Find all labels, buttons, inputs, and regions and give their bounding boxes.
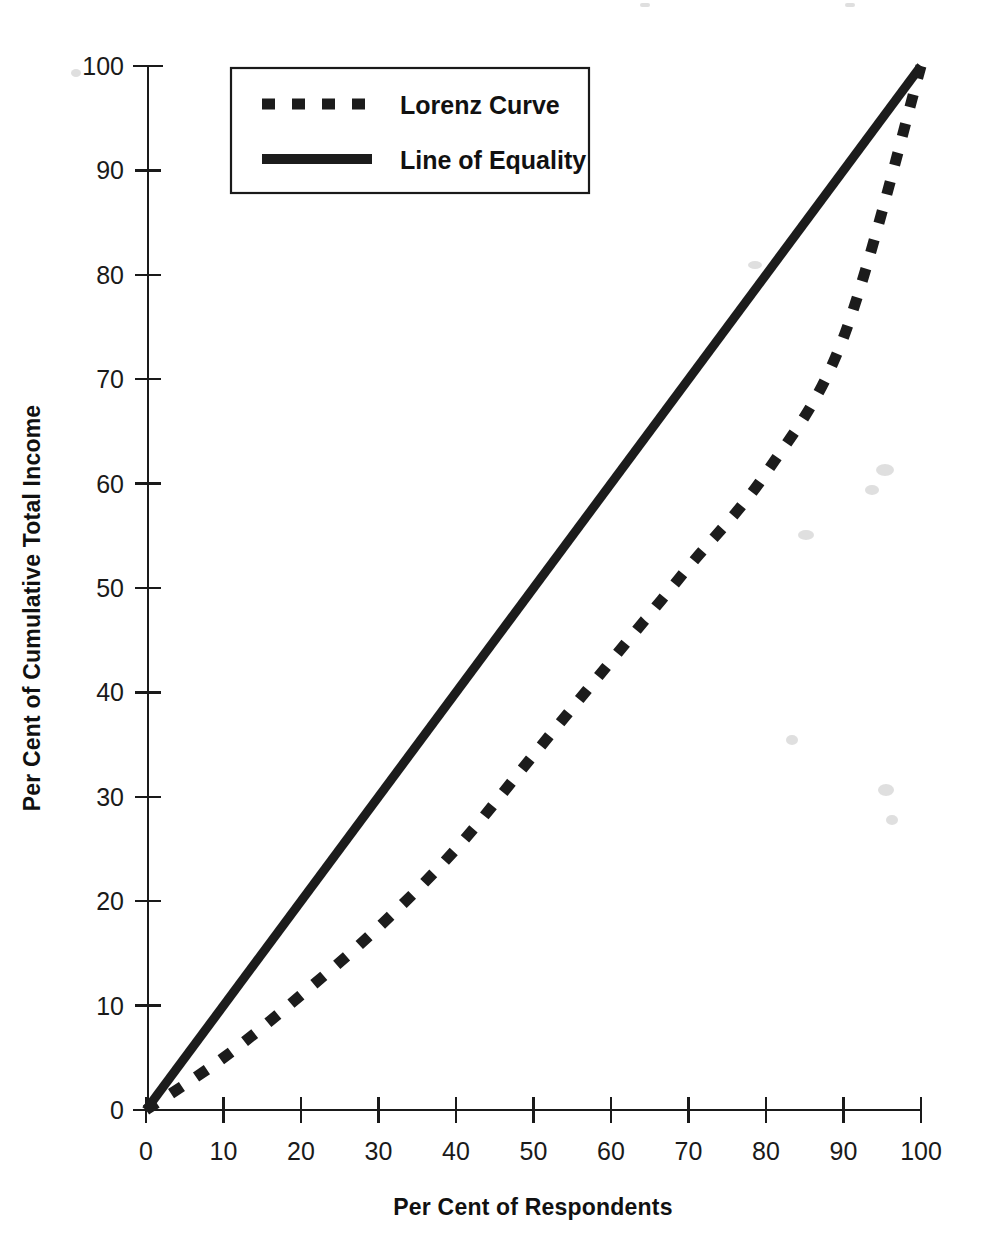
x-tick-label: 0	[139, 1137, 153, 1165]
chart-canvas: 0102030405060708090100 01020304050607080…	[0, 0, 985, 1259]
y-tick-label: 100	[82, 52, 124, 80]
legend-label-line-of-equality: Line of Equality	[400, 146, 586, 174]
chart-legend: Lorenz Curve Line of Equality	[231, 68, 589, 193]
y-tick-label: 70	[96, 365, 124, 393]
x-tick-label: 60	[597, 1137, 625, 1165]
y-tick-label: 90	[96, 156, 124, 184]
x-tick-label: 90	[830, 1137, 858, 1165]
x-axis-title: Per Cent of Respondents	[393, 1194, 672, 1220]
legend-label-lorenz-curve: Lorenz Curve	[400, 91, 560, 119]
x-tick-label: 100	[900, 1137, 942, 1165]
x-tick-label: 20	[287, 1137, 315, 1165]
y-tick-label: 20	[96, 887, 124, 915]
y-tick-label: 0	[110, 1096, 124, 1124]
y-tick-label: 60	[96, 470, 124, 498]
x-tick-label: 10	[210, 1137, 238, 1165]
x-tick-label: 40	[442, 1137, 470, 1165]
x-tick-label: 80	[752, 1137, 780, 1165]
y-tick-label: 50	[96, 574, 124, 602]
y-axis-title: Per Cent of Cumulative Total Income	[19, 405, 45, 812]
y-tick-label: 80	[96, 261, 124, 289]
y-tick-label: 10	[96, 992, 124, 1020]
x-tick-label: 70	[675, 1137, 703, 1165]
x-tick-label: 30	[365, 1137, 393, 1165]
x-tick-label: 50	[520, 1137, 548, 1165]
y-tick-label: 30	[96, 783, 124, 811]
lorenz-curve-chart: 0102030405060708090100 01020304050607080…	[0, 0, 985, 1259]
legend-box	[231, 68, 589, 193]
y-tick-label: 40	[96, 678, 124, 706]
